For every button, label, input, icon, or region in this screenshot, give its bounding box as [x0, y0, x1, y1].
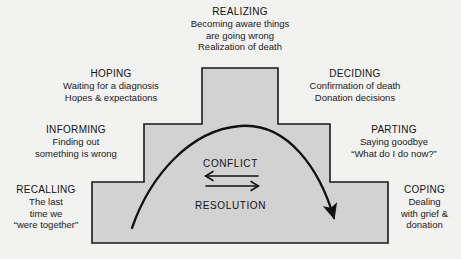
- stage-recalling-line-3: “were together”: [0, 219, 92, 231]
- stage-coping-line-2: with grief &: [388, 208, 461, 220]
- stage-realizing-title: REALIZING: [140, 6, 340, 18]
- stage-parting-line-2: “What do I do now?”: [328, 148, 460, 160]
- stage-hoping-line-2: Hopes & expectations: [28, 92, 194, 104]
- stage-realizing: REALIZING Becoming aware things are goin…: [140, 6, 340, 53]
- stage-parting-title: PARTING: [328, 124, 460, 136]
- stage-deciding-line-1: Confirmation of death: [272, 80, 438, 92]
- stage-recalling: RECALLING The last time we “were togethe…: [0, 184, 92, 231]
- stage-hoping-line-1: Waiting for a diagnosis: [28, 80, 194, 92]
- stage-deciding: DECIDING Confirmation of death Donation …: [272, 68, 438, 103]
- stage-informing: INFORMING Finding out something is wrong: [6, 124, 146, 159]
- stage-realizing-line-2: are going wrong: [140, 30, 340, 42]
- stage-informing-title: INFORMING: [6, 124, 146, 136]
- conflict-label: CONFLICT: [0, 158, 461, 169]
- stage-coping: COPING Dealing with grief & donation: [388, 184, 461, 231]
- stage-parting-line-1: Saying goodbye: [328, 136, 460, 148]
- stage-informing-line-2: something is wrong: [6, 148, 146, 160]
- stage-realizing-line-3: Realization of death: [140, 41, 340, 53]
- stage-deciding-line-2: Donation decisions: [272, 92, 438, 104]
- stage-deciding-title: DECIDING: [272, 68, 438, 80]
- stage-hoping: HOPING Waiting for a diagnosis Hopes & e…: [28, 68, 194, 103]
- stage-informing-line-1: Finding out: [6, 136, 146, 148]
- stage-recalling-line-2: time we: [0, 208, 92, 220]
- stage-coping-line-1: Dealing: [388, 196, 461, 208]
- stage-coping-title: COPING: [388, 184, 461, 196]
- stage-recalling-line-1: The last: [0, 196, 92, 208]
- stage-coping-line-3: donation: [388, 219, 461, 231]
- stages-pyramid-diagram: CONFLICT RESOLUTION REALIZING Becoming a…: [0, 0, 461, 259]
- stage-recalling-title: RECALLING: [0, 184, 92, 196]
- stage-hoping-title: HOPING: [28, 68, 194, 80]
- stage-parting: PARTING Saying goodbye “What do I do now…: [328, 124, 460, 159]
- stage-realizing-line-1: Becoming aware things: [140, 18, 340, 30]
